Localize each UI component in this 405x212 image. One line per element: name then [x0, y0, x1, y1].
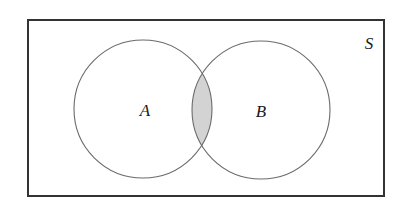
universe-label: S [365, 34, 374, 53]
set-b-label: B [256, 102, 267, 121]
venn-diagram: A B S [0, 0, 405, 212]
set-a-label: A [139, 101, 151, 120]
